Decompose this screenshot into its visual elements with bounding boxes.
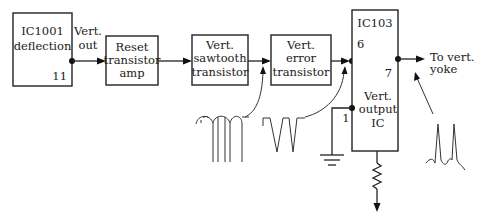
waveform-yoke-output-icon [426, 124, 465, 170]
svg-text:yoke: yoke [429, 62, 457, 76]
arrow-head-icon [414, 72, 420, 81]
svg-text:sawtooth: sawtooth [193, 51, 247, 65]
arrow-head-icon [262, 58, 271, 65]
arrow-head-icon [342, 66, 348, 74]
block-vert-error-transistor: Vert. error transistor [271, 35, 331, 85]
svg-text:IC: IC [371, 116, 385, 130]
svg-text:amp: amp [119, 66, 144, 80]
block-ic103-vert-output-ic: IC103 6 7 Vert. output IC 1 [342, 10, 398, 151]
ground-icon [320, 155, 344, 165]
arrow-head-icon [260, 66, 266, 74]
connector-ic1001-to-reset [69, 58, 106, 65]
svg-text:transistor: transistor [273, 65, 330, 79]
arrow-head-icon [416, 56, 425, 63]
block-ic1001: IC1001 deflection 11 [13, 13, 72, 86]
arrow-to-yoke-pointer [417, 78, 433, 114]
resistor-icon [373, 163, 381, 189]
svg-text:Vert.: Vert. [73, 24, 102, 38]
svg-text:Reset: Reset [116, 40, 149, 54]
svg-text:Vert.: Vert. [363, 89, 392, 103]
ic1001-pin-11: 11 [52, 69, 67, 83]
block-vert-sawtooth-transistor: Vert. sawtooth transistor [192, 35, 249, 85]
arrow-down-icon [374, 203, 381, 212]
connector-reset-to-sawtooth [158, 58, 192, 65]
svg-text:out: out [79, 38, 98, 52]
block-reset-transistor-amp: Reset transistor amp [104, 36, 161, 85]
svg-text:error: error [286, 51, 317, 65]
connector-sawtooth-to-error [248, 58, 271, 65]
label-to-vert-yoke: To vert. yoke [429, 50, 474, 76]
ground-connection [320, 105, 355, 165]
label-vert-out: Vert. out [73, 24, 102, 52]
ic1001-title: IC1001 [21, 24, 64, 38]
ic103-pin-1: 1 [342, 111, 349, 125]
svg-text:Vert.: Vert. [205, 38, 234, 52]
waveform-sawtooth-input-icon [196, 116, 249, 162]
resistor-output [373, 151, 381, 212]
ic103-pin-7: 7 [385, 66, 392, 80]
ic103-title: IC103 [357, 16, 392, 30]
vertical-deflection-diagram: IC1001 deflection 11 Vert. out Reset tra… [0, 0, 478, 218]
svg-text:Vert.: Vert. [286, 38, 315, 52]
waveform-error-input-icon [263, 118, 305, 152]
svg-text:transistor: transistor [104, 53, 161, 67]
connector-ic103-to-yoke [395, 56, 425, 63]
ic1001-subtitle: deflection [14, 39, 72, 53]
arrow-head-icon [341, 58, 350, 65]
svg-text:output: output [359, 102, 398, 116]
arrow-head-icon [183, 58, 192, 65]
svg-text:transistor: transistor [192, 65, 249, 79]
ic103-pin-6: 6 [357, 37, 364, 51]
